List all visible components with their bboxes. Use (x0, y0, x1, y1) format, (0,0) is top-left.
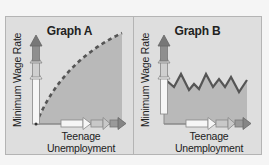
graph-b-x-axis-label-line2: Unemployment (154, 142, 264, 154)
up-arrow-icon (30, 35, 42, 124)
graph-a-panel: Graph A Minimum Wage Rate Teenage Unempl… (5, 16, 134, 155)
graph-a-shaded-area (36, 33, 122, 124)
graph-b-y-axis-label: Minimum Wage Rate (139, 33, 151, 127)
graph-a-y-axis-label: Minimum Wage Rate (11, 33, 23, 127)
graph-b-panel: Graph B Minimum Wage Rate Teenage Unempl… (133, 16, 262, 155)
graph-a-x-axis-label-line2: Unemployment (26, 142, 136, 154)
graph-a-title: Graph A (6, 24, 133, 38)
graph-b-x-axis-label-line1: Teenage (154, 130, 264, 142)
graph-b-title: Graph B (134, 24, 261, 38)
graph-a-x-axis-label-line1: Teenage (26, 130, 136, 142)
